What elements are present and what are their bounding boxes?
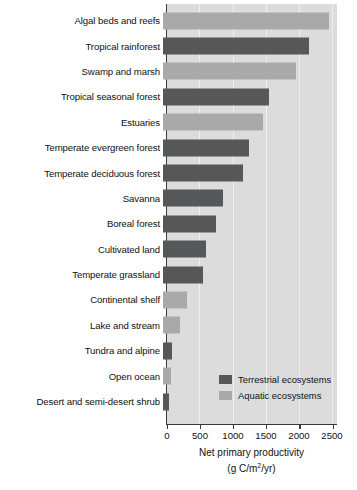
bar-row: Tropical seasonal forest bbox=[0, 84, 357, 109]
bar-lake-and-stream bbox=[163, 317, 180, 334]
bar-boreal-forest bbox=[163, 215, 216, 232]
category-label: Tundra and alpine bbox=[0, 345, 163, 356]
category-label: Cultivated land bbox=[0, 244, 163, 255]
category-label: Temperate evergreen forest bbox=[0, 142, 163, 153]
legend-label-aquatic: Aquatic ecosystems bbox=[238, 390, 321, 401]
bar-tundra-and-alpine bbox=[163, 342, 172, 359]
category-label: Tropical seasonal forest bbox=[0, 91, 163, 102]
bar-cell bbox=[163, 237, 357, 262]
category-label: Open ocean bbox=[0, 371, 163, 382]
x-axis-title-main: Net primary productivity bbox=[166, 446, 337, 459]
category-label: Continental shelf bbox=[0, 294, 163, 305]
bar-row: Tundra and alpine bbox=[0, 338, 357, 363]
x-tick-label-1500: 1500 bbox=[255, 430, 276, 441]
category-label: Tropical rainforest bbox=[0, 41, 163, 52]
category-label: Savanna bbox=[0, 193, 163, 204]
x-axis-title-units: (g C/m2/yr) bbox=[166, 459, 337, 475]
category-label: Desert and semi-desert shrub bbox=[0, 396, 163, 407]
bar-row: Cultivated land bbox=[0, 237, 357, 262]
bar-cell bbox=[163, 338, 357, 363]
bar-tropical-seasonal-forest bbox=[163, 88, 269, 105]
bar-swamp-and-marsh bbox=[163, 63, 296, 80]
bar-cell bbox=[163, 33, 357, 58]
category-label: Temperate grassland bbox=[0, 269, 163, 280]
bar-temperate-evergreen-forest bbox=[163, 139, 249, 156]
x-axis-title: Net primary productivity (g C/m2/yr) bbox=[166, 446, 337, 475]
bar-cell bbox=[163, 135, 357, 160]
bar-cell bbox=[163, 262, 357, 287]
bar-cell bbox=[163, 313, 357, 338]
bar-row: Temperate deciduous forest bbox=[0, 160, 357, 185]
bar-cell bbox=[163, 59, 357, 84]
legend-swatch-icon-terrestrial bbox=[219, 375, 232, 384]
bar-continental-shelf bbox=[163, 291, 187, 308]
category-label: Algal beds and reefs bbox=[0, 15, 163, 26]
bar-cell bbox=[163, 84, 357, 109]
bar-cell bbox=[163, 160, 357, 185]
bar-temperate-grassland bbox=[163, 266, 203, 283]
bar-savanna bbox=[163, 190, 223, 207]
npp-bar-chart-figure: Algal beds and reefs Tropical rainforest… bbox=[0, 0, 357, 490]
units-prefix: (g C/m bbox=[227, 463, 257, 474]
x-axis-line bbox=[166, 424, 337, 425]
bar-rows-container: Algal beds and reefs Tropical rainforest… bbox=[0, 8, 357, 414]
bar-temperate-deciduous-forest bbox=[163, 165, 243, 182]
bar-open-ocean bbox=[163, 368, 171, 385]
bar-cell bbox=[163, 110, 357, 135]
bar-row: Swamp and marsh bbox=[0, 59, 357, 84]
bar-cultivated-land bbox=[163, 241, 206, 258]
legend-swatch-icon-aquatic bbox=[219, 391, 232, 400]
x-tick-2000 bbox=[299, 424, 300, 429]
x-tick-label-2500: 2500 bbox=[321, 430, 342, 441]
category-label: Lake and stream bbox=[0, 320, 163, 331]
x-tick-label-500: 500 bbox=[192, 430, 208, 441]
legend-label-terrestrial: Terrestrial ecosystems bbox=[238, 374, 331, 385]
bar-row: Estuaries bbox=[0, 110, 357, 135]
x-tick-label-2000: 2000 bbox=[288, 430, 309, 441]
category-label: Boreal forest bbox=[0, 218, 163, 229]
bar-row: Boreal forest bbox=[0, 211, 357, 236]
bar-tropical-rainforest bbox=[163, 38, 309, 55]
bar-cell bbox=[163, 211, 357, 236]
bar-cell bbox=[163, 287, 357, 312]
bar-estuaries bbox=[163, 114, 263, 131]
bar-algal-beds-and-reefs bbox=[163, 12, 329, 29]
category-label: Estuaries bbox=[0, 117, 163, 128]
bar-row: Algal beds and reefs bbox=[0, 8, 357, 33]
x-tick-1000 bbox=[233, 424, 234, 429]
legend-item-terrestrial: Terrestrial ecosystems bbox=[219, 372, 331, 387]
bar-cell bbox=[163, 186, 357, 211]
bar-row: Lake and stream bbox=[0, 313, 357, 338]
x-tick-label-1000: 1000 bbox=[222, 430, 243, 441]
legend-item-aquatic: Aquatic ecosystems bbox=[219, 388, 331, 403]
bar-row: Temperate evergreen forest bbox=[0, 135, 357, 160]
category-label: Temperate deciduous forest bbox=[0, 168, 163, 179]
x-tick-1500 bbox=[266, 424, 267, 429]
category-label: Swamp and marsh bbox=[0, 66, 163, 77]
units-suffix: /yr) bbox=[261, 463, 275, 474]
bar-cell bbox=[163, 8, 357, 33]
bar-row: Temperate grassland bbox=[0, 262, 357, 287]
bar-desert-and-semi-desert-shrub bbox=[163, 393, 169, 410]
x-tick-2500 bbox=[333, 424, 334, 429]
x-tick-500 bbox=[200, 424, 201, 429]
bar-row: Continental shelf bbox=[0, 287, 357, 312]
bar-row: Savanna bbox=[0, 186, 357, 211]
chart-legend: Terrestrial ecosystems Aquatic ecosystem… bbox=[219, 372, 331, 404]
x-tick-0 bbox=[167, 424, 168, 429]
x-tick-label-0: 0 bbox=[164, 430, 169, 441]
bar-row: Tropical rainforest bbox=[0, 33, 357, 58]
